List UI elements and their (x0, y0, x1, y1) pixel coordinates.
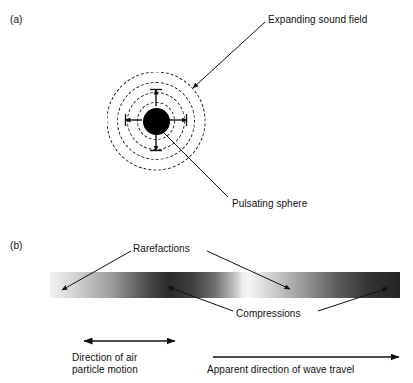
pulsating-sphere-label: Pulsating sphere (232, 198, 307, 210)
acoustics-figure: (a) Expanding sound field Pulsating sphe… (0, 0, 413, 383)
panel-a-tag: (a) (10, 14, 22, 26)
panel-b-tag: (b) (10, 240, 22, 252)
wave-travel-label: Apparent direction of wave travel (207, 364, 354, 376)
particle-motion-label: Direction of air particle motion (72, 352, 138, 375)
wave-pressure-band (50, 272, 400, 298)
rarefactions-label: Rarefactions (133, 243, 190, 255)
expanding-sound-field-diagram (100, 65, 212, 177)
expanding-sound-field-label: Expanding sound field (268, 14, 367, 26)
compressions-label: Compressions (236, 308, 301, 320)
figure-annotations (0, 0, 413, 383)
pulsating-sphere-body (143, 108, 170, 135)
